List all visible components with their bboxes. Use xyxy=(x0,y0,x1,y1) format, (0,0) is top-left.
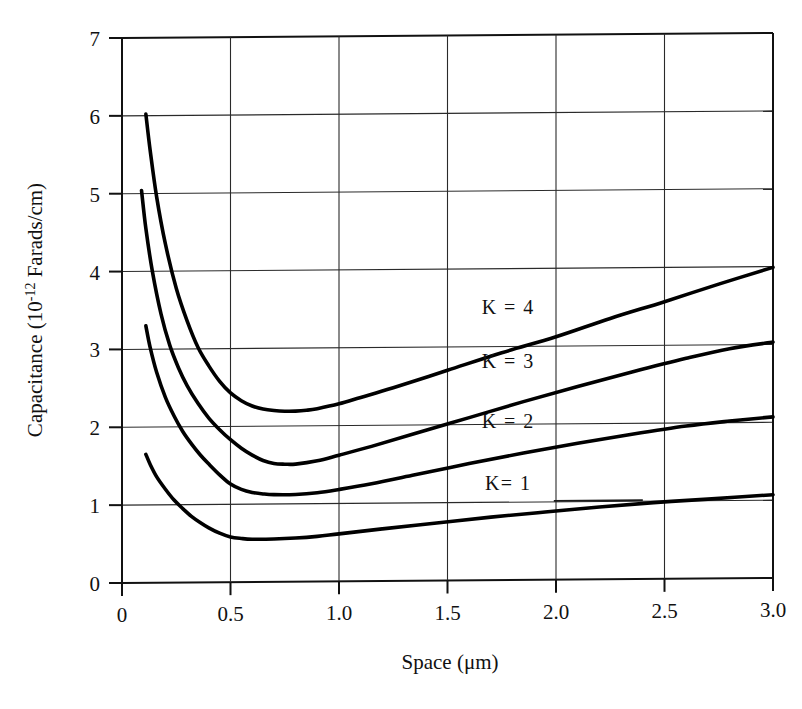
y-axis-title-text: Capacitance (10-12 Farads/cm) xyxy=(23,183,47,437)
x-axis-title: Space (μm) xyxy=(402,650,499,674)
y-tick-label: 1 xyxy=(90,494,101,518)
x-tick-label: 1.0 xyxy=(326,601,352,625)
y-axis-title-exponent: -12 xyxy=(23,283,38,302)
y-tick-label: 2 xyxy=(90,416,101,440)
series-annotation: K = 4 xyxy=(482,296,535,318)
k1-leader-line xyxy=(554,500,643,501)
y-axis-title: Capacitance (10-12 Farads/cm) xyxy=(23,183,47,437)
x-tick-label: 0.5 xyxy=(217,602,243,626)
series-annotation: K = 3 xyxy=(482,350,535,372)
capacitance-vs-space-chart: 00.51.01.52.02.53.0 01234567 K = 4K = 3K… xyxy=(0,0,802,709)
y-axis-title-base: Capacitance (10 xyxy=(23,301,47,437)
chart-figure: 00.51.01.52.02.53.0 01234567 K = 4K = 3K… xyxy=(0,0,802,709)
y-tick-label: 0 xyxy=(90,572,101,596)
y-tick-label: 3 xyxy=(90,338,101,362)
y-tick-label: 5 xyxy=(90,183,101,207)
x-tick-label: 3.0 xyxy=(760,598,786,622)
y-tick-label: 7 xyxy=(90,27,101,51)
x-tick-label: 2.5 xyxy=(651,599,677,623)
x-tick-label: 1.5 xyxy=(434,601,460,625)
series-annotation: K = 2 xyxy=(482,410,535,432)
series-annotation: K= 1 xyxy=(485,472,532,494)
y-tick-label: 4 xyxy=(90,261,101,285)
y-tick-label: 6 xyxy=(90,105,101,129)
x-tick-label: 2.0 xyxy=(543,600,569,624)
y-axis-title-tail: Farads/cm) xyxy=(23,183,47,283)
x-tick-label: 0 xyxy=(117,603,128,627)
